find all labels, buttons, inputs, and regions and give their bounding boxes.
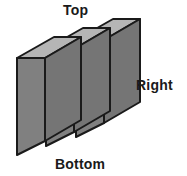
label-top: Top [63, 3, 88, 17]
label-right: Right [136, 78, 173, 92]
label-bottom: Bottom [55, 157, 105, 171]
slab-group-1 [17, 37, 81, 155]
slab-1-front-face [17, 58, 45, 155]
figure-canvas: Top Right Bottom [0, 0, 187, 176]
